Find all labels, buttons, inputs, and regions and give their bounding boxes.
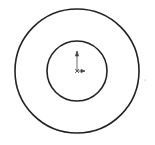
sketch-canvas[interactable] (0, 0, 155, 145)
origin-axes-icon (75, 51, 85, 73)
stray-point (144, 79, 145, 80)
